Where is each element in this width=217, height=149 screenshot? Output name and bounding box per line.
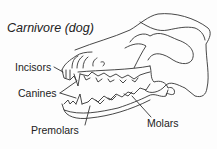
- upper-canine: [74, 74, 80, 86]
- lower-incisors: [64, 100, 76, 104]
- canines-leader-upper: [60, 81, 77, 93]
- canines-label: Canines: [18, 87, 57, 99]
- lower-canine: [76, 94, 82, 104]
- cranium-outline: [75, 14, 210, 97]
- lower-tooth-row: [82, 84, 150, 104]
- small-curl: [101, 62, 104, 66]
- canines-leader-lower: [60, 93, 76, 98]
- mandible-outline: [62, 90, 168, 113]
- premolars-label: Premolars: [31, 124, 79, 136]
- premolars-leader: [85, 106, 90, 125]
- jaw-hinge: [150, 66, 175, 95]
- upper-tooth-bumps: [84, 76, 138, 83]
- nasal-lines: [72, 56, 97, 68]
- dog-skull-diagram: Carnivore (dog) Incisors Canines Premola…: [0, 0, 217, 149]
- molars-label: Molars: [147, 117, 179, 129]
- upper-tooth-row: [80, 72, 150, 79]
- upper-gum-line: [78, 66, 150, 72]
- incisors-leader: [54, 67, 63, 72]
- orbit: [125, 44, 146, 68]
- zygomatic-arch: [130, 33, 193, 63]
- incisors-label: Incisors: [15, 61, 51, 73]
- diagram-title: Carnivore (dog): [7, 21, 94, 35]
